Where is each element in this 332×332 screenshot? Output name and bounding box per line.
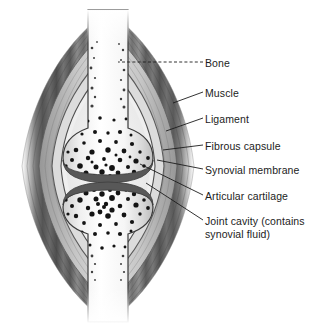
label-bone: Bone [205,57,230,70]
label-joint-cavity-line2: synovial fluid) [205,228,270,241]
label-joint-cavity-line1: Joint cavity (contains [205,215,305,228]
joint-diagram: Bone Muscle Ligament Fibrous capsule Syn… [0,0,332,332]
leader-muscle [173,92,203,103]
label-ligament: Ligament [205,113,249,126]
label-fibrous-capsule: Fibrous capsule [205,140,281,153]
label-muscle: Muscle [205,87,239,100]
label-synovial-membrane: Synovial membrane [205,164,300,177]
label-articular-cartilage: Articular cartilage [205,190,288,203]
